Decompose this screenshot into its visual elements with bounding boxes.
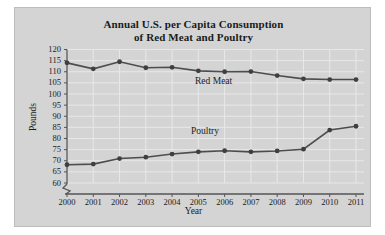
y-tick-label: 120 bbox=[39, 45, 61, 54]
data-point bbox=[196, 149, 201, 154]
data-point bbox=[65, 60, 70, 65]
chart-figure: Annual U.S. per Capita Consumption of Re… bbox=[0, 0, 385, 235]
y-tick-label: 110 bbox=[39, 67, 61, 76]
data-point bbox=[170, 65, 175, 70]
y-tick-label: 105 bbox=[39, 78, 61, 87]
data-point bbox=[117, 59, 122, 64]
data-point bbox=[143, 65, 148, 70]
data-point bbox=[91, 162, 96, 167]
data-point bbox=[301, 147, 306, 152]
data-point bbox=[143, 155, 148, 160]
y-tick-label: 80 bbox=[39, 134, 61, 143]
y-tick-label: 95 bbox=[39, 101, 61, 110]
plot-area bbox=[15, 8, 372, 228]
data-point bbox=[275, 149, 280, 154]
data-point bbox=[65, 162, 70, 167]
data-point bbox=[222, 148, 227, 153]
data-point bbox=[196, 68, 201, 73]
series-label-poultry: Poultry bbox=[191, 126, 219, 136]
data-point bbox=[327, 128, 332, 133]
data-point bbox=[275, 73, 280, 78]
y-tick-label: 70 bbox=[39, 156, 61, 165]
y-tick-label: 60 bbox=[39, 179, 61, 188]
x-axis-title: Year bbox=[15, 206, 372, 216]
axis-break-icon bbox=[63, 184, 70, 194]
gridlines bbox=[67, 50, 364, 184]
y-tick-label: 100 bbox=[39, 90, 61, 99]
series-label-red-meat: Red Meat bbox=[195, 76, 232, 86]
chart-panel: Annual U.S. per Capita Consumption of Re… bbox=[14, 7, 371, 227]
data-point bbox=[354, 77, 359, 82]
data-point bbox=[301, 76, 306, 81]
y-tick-label: 90 bbox=[39, 112, 61, 121]
y-tick-label: 65 bbox=[39, 167, 61, 176]
y-tick-label: 75 bbox=[39, 145, 61, 154]
y-axis-title: Pounds bbox=[28, 87, 38, 147]
data-point bbox=[354, 124, 359, 129]
data-point bbox=[222, 69, 227, 74]
data-point bbox=[117, 156, 122, 161]
data-point bbox=[327, 77, 332, 82]
data-point bbox=[170, 152, 175, 157]
data-point bbox=[249, 69, 254, 74]
data-point bbox=[249, 149, 254, 154]
data-point bbox=[91, 66, 96, 71]
y-tick-label: 85 bbox=[39, 123, 61, 132]
y-tick-label: 115 bbox=[39, 56, 61, 65]
